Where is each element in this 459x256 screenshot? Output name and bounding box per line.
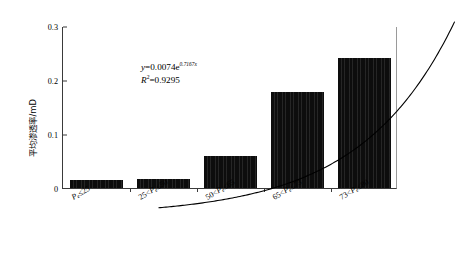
plot-area: 00.10.20.3 Pe≤2525<Pe≤5050<Pe≤6565<Pe≤73… — [62, 27, 397, 189]
y-tick-label: 0.1 — [48, 131, 63, 140]
y-axis-title: 平均渗透率/mD — [26, 99, 38, 157]
y-tick-label: 0.3 — [48, 23, 63, 32]
equation-line: y=0.0074e0.7167x — [141, 61, 197, 74]
equation-exponent: 0.7167x — [180, 61, 197, 67]
trendline-annotation: y=0.0074e0.7167x R2=0.9295 — [141, 61, 197, 87]
bar — [70, 180, 124, 188]
r-squared-line: R2=0.9295 — [141, 74, 197, 87]
r2-value: 0.9295 — [155, 75, 180, 85]
equation-coefficient: 0.0074e — [150, 62, 179, 72]
y-tick-label: 0 — [54, 185, 63, 194]
y-tick-label: 0.2 — [48, 77, 63, 86]
